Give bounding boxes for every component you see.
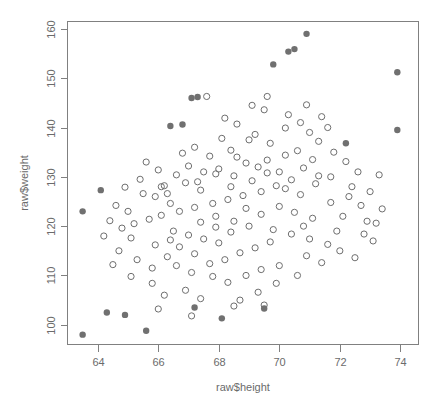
plot-canvas: 646668707274 100110120130140150160 raw$h… — [0, 0, 436, 412]
y-tick-label: 100 — [45, 316, 57, 334]
data-point-filled — [394, 127, 400, 133]
x-axis-title: raw$height — [216, 381, 270, 393]
x-tick-label: 68 — [213, 356, 225, 368]
y-tick-label: 110 — [45, 267, 57, 285]
x-tick-label: 70 — [273, 356, 285, 368]
data-point-filled — [188, 95, 194, 101]
data-point-filled — [343, 140, 349, 146]
data-point-filled — [167, 123, 173, 129]
x-tick-label: 72 — [334, 356, 346, 368]
data-point-filled — [79, 208, 85, 214]
data-point-filled — [219, 315, 225, 321]
data-point-filled — [191, 304, 197, 310]
y-tick-label: 130 — [45, 168, 57, 186]
data-point-filled — [122, 312, 128, 318]
data-point-filled — [270, 61, 276, 67]
data-point-filled — [285, 48, 291, 54]
x-tick-label: 64 — [92, 356, 104, 368]
y-axis-title: raw$weight — [18, 155, 30, 211]
data-point-filled — [303, 31, 309, 37]
scatter-plot-figure: 646668707274 100110120130140150160 raw$h… — [0, 0, 436, 412]
data-point-filled — [261, 305, 267, 311]
y-tick-label: 140 — [45, 119, 57, 137]
data-point-filled — [104, 309, 110, 315]
data-point-filled — [98, 187, 104, 193]
x-tick-label: 74 — [394, 356, 406, 368]
data-point-filled — [194, 94, 200, 100]
data-point-filled — [79, 331, 85, 337]
data-point-filled — [291, 46, 297, 52]
y-tick-label: 160 — [45, 20, 57, 38]
data-point-filled — [143, 327, 149, 333]
x-tick-label: 66 — [152, 356, 164, 368]
y-tick-label: 120 — [45, 217, 57, 235]
data-point-filled — [394, 69, 400, 75]
y-tick-label: 150 — [45, 69, 57, 87]
figure-background — [0, 0, 436, 412]
data-point-filled — [179, 121, 185, 127]
